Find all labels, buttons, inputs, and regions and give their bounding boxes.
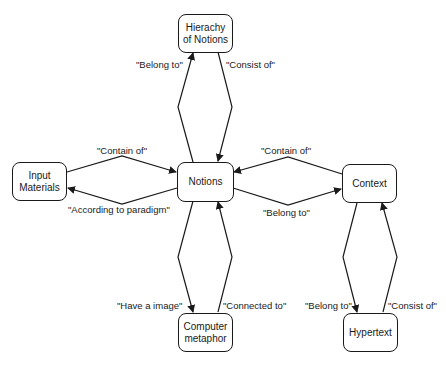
edge-computer-to-notions [218, 202, 232, 312]
node-label: Input Materials [15, 170, 64, 194]
node-notions[interactable]: Notions [177, 162, 234, 202]
edge-notions-to-input [68, 188, 177, 204]
edge-label-belong-to-context: "Belong to" [263, 207, 310, 218]
node-label: Notions [189, 176, 223, 188]
edge-context-to-notions [234, 157, 342, 174]
edge-notions-to-computer [178, 201, 193, 312]
edge-context-to-hypertext [343, 203, 357, 312]
edge-notions-to-context [233, 188, 341, 205]
node-hierachy-of-notions[interactable]: Hierachy of Notions [178, 14, 233, 53]
node-label: Context [352, 178, 386, 190]
edge-label-contain-of-input: "Contain of" [97, 145, 147, 156]
node-label: Hierachy of Notions [181, 22, 230, 46]
node-hypertext[interactable]: Hypertext [343, 313, 398, 352]
edge-label-have-a-image: "Have a image" [117, 300, 182, 311]
edge-label-contain-of-context: "Contain of" [261, 145, 311, 156]
edge-label-according-to-paradigm: "According to paradigm" [68, 204, 170, 215]
edge-input-to-notions [67, 156, 176, 172]
edge-hypertext-to-context [382, 203, 397, 312]
node-computer-metaphor[interactable]: Computer metaphor [178, 313, 233, 352]
node-label: Computer metaphor [181, 321, 230, 345]
edge-label-belong-to-hierachy: "Belong to" [136, 59, 183, 70]
node-label: Hypertext [349, 327, 392, 339]
node-context[interactable]: Context [342, 164, 397, 203]
node-input-materials[interactable]: Input Materials [12, 162, 67, 201]
edge-label-consist-of-hierachy: "Consist of" [226, 59, 275, 70]
edge-label-consist-of-hypertext: "Consist of" [388, 300, 437, 311]
edge-label-belong-to-hypertext: "Belong to" [305, 300, 352, 311]
edge-label-connected-to: "Connected to" [223, 300, 286, 311]
